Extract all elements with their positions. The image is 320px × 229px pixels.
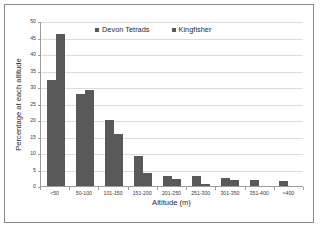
bar-group — [99, 22, 128, 186]
bar-group — [216, 22, 245, 186]
x-axis-tick-label: 101-150 — [98, 188, 127, 198]
x-axis-tick-label: >400 — [274, 188, 303, 198]
x-axis-tick-label: 301-350 — [215, 188, 244, 198]
legend-label: Devon Tetrads — [102, 25, 150, 34]
bars-layer — [41, 22, 303, 186]
bar — [134, 156, 143, 186]
y-axis-tick-label: 20 — [30, 118, 36, 123]
y-axis-tick-label: 40 — [30, 52, 36, 57]
y-axis-tick-label: 5 — [33, 168, 36, 173]
x-axis-tick-label: 50-100 — [69, 188, 98, 198]
bar — [279, 181, 288, 186]
x-axis-tick-label: <50 — [40, 188, 69, 198]
legend-swatch-icon — [95, 28, 99, 32]
bar — [47, 80, 56, 186]
x-axis-tick-label: 201-250 — [157, 188, 186, 198]
plot-area: 05101520253035404550 — [40, 22, 303, 187]
bar — [114, 134, 123, 186]
y-axis-title: Percentage at each altitude — [12, 22, 24, 187]
chart-legend: Devon TetradsKingfisher — [95, 25, 211, 34]
bar — [85, 90, 94, 186]
bar-group — [157, 22, 186, 186]
y-axis-tick-label: 45 — [30, 36, 36, 41]
chart-frame: Percentage at each altitude 051015202530… — [4, 4, 314, 223]
bar-group — [187, 22, 216, 186]
legend-entry: Kingfisher — [172, 25, 212, 34]
x-axis-tick-label: 251-300 — [186, 188, 215, 198]
bar — [163, 176, 172, 186]
y-axis-tick-label: 30 — [30, 85, 36, 90]
y-axis-tick-label: 25 — [30, 102, 36, 107]
y-axis-tick-label: 35 — [30, 69, 36, 74]
bar-group — [70, 22, 99, 186]
x-axis-tick-label: 351-400 — [245, 188, 274, 198]
bar — [143, 173, 152, 186]
x-axis-tick-labels: <5050-100101-150151-200201-250251-300301… — [40, 188, 303, 198]
legend-label: Kingfisher — [179, 25, 212, 34]
bar-group — [274, 22, 303, 186]
x-axis-tick-label: 151-200 — [128, 188, 157, 198]
x-axis-tick-mark — [303, 187, 304, 190]
bar — [221, 178, 230, 186]
bar — [201, 184, 210, 186]
legend-swatch-icon — [172, 28, 176, 32]
y-axis-tick-label: 10 — [30, 151, 36, 156]
bar-group — [245, 22, 274, 186]
y-axis-tick-label: 0 — [33, 184, 36, 189]
bar — [230, 180, 239, 186]
x-axis-title: Altitude (m) — [40, 198, 303, 207]
bar-group — [41, 22, 70, 186]
y-axis-tick-label: 50 — [30, 19, 36, 24]
bar — [105, 120, 114, 186]
bar — [172, 179, 181, 186]
y-axis-tick-label: 15 — [30, 135, 36, 140]
bar-group — [128, 22, 157, 186]
bar — [76, 94, 85, 186]
bar — [250, 180, 259, 186]
legend-entry: Devon Tetrads — [95, 25, 150, 34]
bar — [192, 176, 201, 186]
bar — [56, 34, 65, 186]
